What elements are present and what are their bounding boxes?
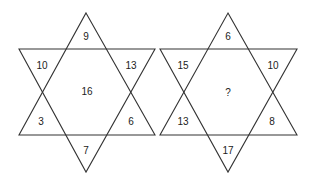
star-1: 9 10 13 16 3 6 7 [19, 13, 155, 172]
star-2-center-question: ? [225, 87, 231, 98]
star-1-upper-right: 13 [125, 60, 137, 71]
star-1-lower-left: 3 [38, 116, 44, 127]
star-1-upper-left: 10 [36, 60, 48, 71]
star-1-top: 9 [83, 31, 89, 42]
star-2: 6 15 10 ? 13 8 17 [160, 13, 297, 172]
puzzle-diagram: 9 10 13 16 3 6 7 6 15 10 ? 13 8 17 [0, 0, 314, 187]
star-2-top: 6 [225, 31, 231, 42]
star-2-lower-right: 8 [269, 116, 275, 127]
star-2-bottom: 17 [222, 145, 234, 156]
star-2-upper-right: 10 [267, 60, 279, 71]
star-2-upper-left: 15 [177, 60, 189, 71]
star-1-bottom: 7 [83, 145, 89, 156]
star-1-center: 16 [81, 86, 93, 97]
star-2-lower-left: 13 [177, 116, 189, 127]
star-1-lower-right: 6 [128, 116, 134, 127]
